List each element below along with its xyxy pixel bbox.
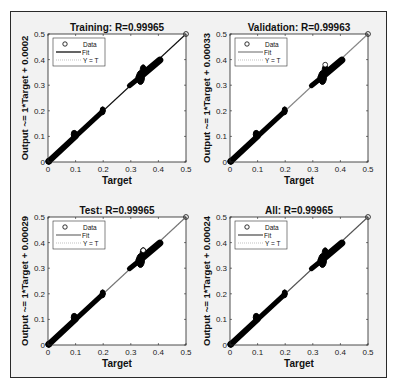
x-axis-label: Target [284,175,314,186]
x-tick-label: 0.3 [307,348,319,357]
data-marker-icon [245,225,249,229]
y-tick-label: 0 [223,158,228,167]
x-tick-label: 0 [228,348,233,357]
y-tick-label: 0.1 [216,132,228,141]
data-marker-icon [63,225,67,229]
data-marker-icon [245,42,249,46]
svg-text:Fit: Fit [82,49,89,56]
svg-text:Data: Data [265,41,279,48]
y-tick-label: 0.2 [34,107,46,116]
y-tick-label: 0.5 [34,213,46,222]
regression-plot-validation: 000.10.10.20.20.30.30.40.40.50.5Validati… [230,34,368,162]
y-tick-label: 0.3 [34,264,46,273]
legend: DataFitY = T [235,221,287,249]
y-axis-label: Output ~= 1*Target + 0.00024 [201,215,212,346]
data-marker-icon [63,42,67,46]
x-tick-label: 0.2 [280,348,292,357]
y-tick-label: 0.4 [34,239,46,248]
plot-title: All: R=0.99965 [265,205,334,216]
y-tick-label: 0.4 [34,56,46,65]
x-tick-label: 0.5 [362,165,374,174]
y-tick-label: 0.4 [216,239,228,248]
x-tick-label: 0.4 [335,348,347,357]
x-axis-label: Target [102,175,132,186]
x-axis-label: Target [102,358,132,369]
y-axis-label: Output ~= 1*Target + 0.0002 [19,36,30,161]
svg-text:Y = T: Y = T [83,57,99,64]
x-axis-label: Target [284,358,314,369]
x-tick-label: 0.2 [98,348,110,357]
x-tick-label: 0.1 [252,165,264,174]
svg-text:Fit: Fit [264,232,271,239]
x-tick-label: 0.2 [280,165,292,174]
plot-title: Test: R=0.99965 [79,205,155,216]
svg-text:Data: Data [265,224,279,231]
plot-area: 000.10.10.20.20.30.30.40.40.50.5All: R=0… [230,217,368,345]
plot-area: 000.10.10.20.20.30.30.40.40.50.5Test: R=… [48,217,186,345]
y-axis-label: Output ~= 1*Target + 0.00033 [201,33,212,163]
x-tick-label: 0.5 [180,348,192,357]
plot-area: 000.10.10.20.20.30.30.40.40.50.5Training… [48,34,186,162]
x-tick-label: 0.5 [362,348,374,357]
y-tick-label: 0.2 [34,290,46,299]
y-axis-label: Output ~= 1*Target + 0.00029 [19,216,30,346]
y-tick-label: 0.3 [216,264,228,273]
y-tick-label: 0.1 [34,315,46,324]
y-tick-label: 0.5 [216,213,228,222]
y-tick-label: 0.5 [216,30,228,39]
y-tick-label: 0 [41,341,46,350]
x-tick-label: 0 [228,165,233,174]
svg-text:Fit: Fit [264,49,271,56]
x-tick-label: 0.1 [70,165,82,174]
x-tick-label: 0.4 [335,165,347,174]
x-tick-label: 0.4 [153,165,165,174]
x-tick-label: 0.3 [307,165,319,174]
y-tick-label: 0.5 [34,30,46,39]
y-tick-label: 0.2 [216,107,228,116]
y-tick-label: 0.2 [216,290,228,299]
y-tick-label: 0.3 [216,81,228,90]
plot-area: 000.10.10.20.20.30.30.40.40.50.5Validati… [230,34,368,162]
legend: DataFitY = T [235,38,287,66]
legend: DataFitY = T [53,38,105,66]
svg-text:Data: Data [83,41,97,48]
svg-text:Y = T: Y = T [265,57,281,64]
x-tick-label: 0.2 [98,165,110,174]
plot-title: Training: R=0.99965 [70,22,165,33]
x-tick-label: 0 [46,165,51,174]
svg-text:Y = T: Y = T [83,240,99,247]
x-tick-label: 0.1 [70,348,82,357]
y-tick-label: 0.3 [34,81,46,90]
regression-plot-all: 000.10.10.20.20.30.30.40.40.50.5All: R=0… [230,217,368,345]
outlier-marker [323,62,328,67]
y-tick-label: 0 [223,341,228,350]
x-tick-label: 0.3 [125,165,137,174]
y-tick-label: 0.1 [34,132,46,141]
svg-text:Fit: Fit [82,232,89,239]
y-tick-label: 0.1 [216,315,228,324]
regression-plot-test: 000.10.10.20.20.30.30.40.40.50.5Test: R=… [48,217,186,345]
svg-text:Y = T: Y = T [265,240,281,247]
y-tick-label: 0.4 [216,56,228,65]
outlier-marker [141,248,146,253]
plot-title: Validation: R=0.99963 [248,22,351,33]
svg-text:Data: Data [83,224,97,231]
x-tick-label: 0.4 [153,348,165,357]
y-tick-label: 0 [41,158,46,167]
x-tick-label: 0.3 [125,348,137,357]
x-tick-label: 0.5 [180,165,192,174]
legend: DataFitY = T [53,221,105,249]
x-tick-label: 0 [46,348,51,357]
x-tick-label: 0.1 [252,348,264,357]
regression-plot-training: 000.10.10.20.20.30.30.40.40.50.5Training… [48,34,186,162]
